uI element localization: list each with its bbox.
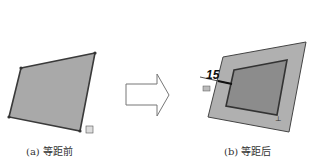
caption-after: (b) 等距后 (224, 143, 271, 158)
svg-text:⊥: ⊥ (275, 115, 282, 123)
caption-before: (a) 等距前 (26, 143, 73, 158)
diagram-canvas: 15 ⊥ (0, 0, 316, 166)
after-polygon: 15 ⊥ (200, 42, 306, 132)
transform-arrow (126, 74, 169, 116)
plane-marker-icon (86, 126, 93, 133)
before-polygon (7, 51, 96, 133)
dimension-value: 15 (206, 68, 220, 82)
